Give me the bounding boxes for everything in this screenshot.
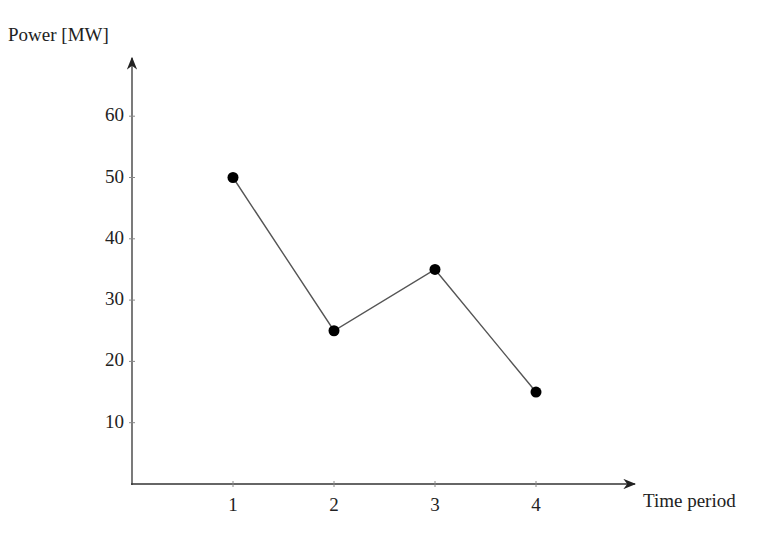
- data-point: [531, 387, 542, 398]
- line-chart: [0, 0, 780, 540]
- y-tick-label: 20: [84, 349, 124, 371]
- data-point: [329, 325, 340, 336]
- y-tick-label: 10: [84, 411, 124, 433]
- x-tick-label: 1: [218, 494, 248, 516]
- x-tick-label: 3: [420, 494, 450, 516]
- data-point: [228, 172, 239, 183]
- data-line: [233, 178, 536, 393]
- x-axis-label: Time period: [643, 490, 736, 512]
- y-tick-label: 60: [84, 104, 124, 126]
- y-tick-label: 30: [84, 288, 124, 310]
- data-points: [228, 172, 542, 398]
- y-axis-label: Power [MW]: [8, 24, 109, 46]
- x-tick-label: 4: [521, 494, 551, 516]
- data-point: [430, 264, 441, 275]
- y-tick-label: 50: [84, 166, 124, 188]
- y-tick-label: 40: [84, 227, 124, 249]
- x-tick-label: 2: [319, 494, 349, 516]
